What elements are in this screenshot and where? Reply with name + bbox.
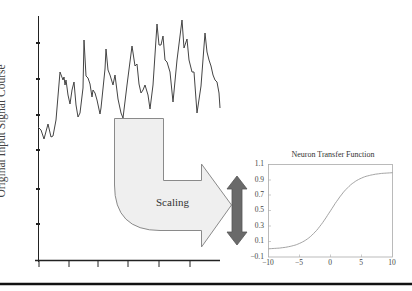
signal-y-axis-label: Original Input Signal Course [0,51,9,211]
figure-canvas [0,0,412,291]
y-tick-label: 0.9 [242,176,264,184]
x-tick-label: −10 [258,259,278,267]
x-tick-label: 10 [382,259,402,267]
y-tick-label: 1.1 [242,160,264,168]
y-tick-label: 0.1 [242,237,264,245]
x-tick-label: 5 [351,259,371,267]
y-tick-label: 0.7 [242,191,264,199]
scaling-arrow [115,119,232,248]
transfer-chart-title: Neuron Transfer Function [274,150,392,159]
x-tick-label: 0 [320,259,340,267]
y-tick-label: 0.5 [242,206,264,214]
y-tick-label: 0.3 [242,222,264,230]
scaling-label: Scaling [156,196,189,208]
x-tick-label: −5 [289,259,309,267]
